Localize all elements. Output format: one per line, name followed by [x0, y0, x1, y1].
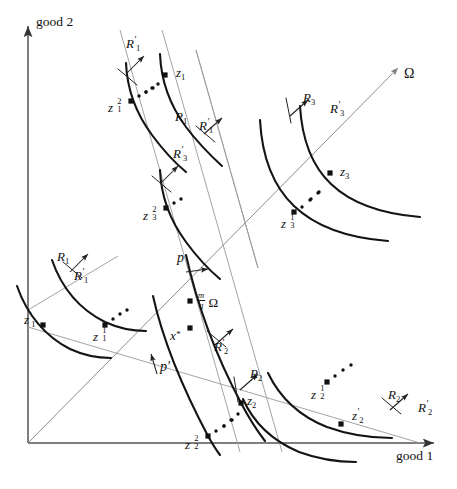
pref-base: R	[418, 400, 426, 415]
alloc-sub: 1	[102, 334, 106, 343]
pref-base: R	[57, 249, 65, 264]
allocation-label-z3-one: z133	[281, 217, 290, 230]
point-z1	[162, 72, 167, 77]
allocation-label-z2-prime: z′2	[352, 408, 363, 424]
q-denominator: q	[197, 301, 205, 310]
alloc-scripts: 222	[190, 438, 194, 451]
allocation-label-z2: z2	[247, 394, 256, 409]
curve-z3	[300, 106, 420, 217]
preference-label-R1-left: R1	[57, 250, 69, 265]
allocation-label-z1-sq: z211	[108, 101, 117, 114]
preference-label-R1p-top: R′1	[126, 36, 140, 52]
allocation-label-z1-one: z111	[93, 330, 102, 343]
dots-upper-left-dot-0	[137, 94, 140, 97]
preference-label-R3-right: R3	[303, 91, 315, 106]
m-over-q-fraction: m q	[197, 291, 205, 310]
pref-sub: 3	[311, 97, 315, 107]
pref-base: R	[175, 109, 183, 124]
endowment-omega: Ω	[205, 295, 218, 310]
preference-label-R1p-left: R′1	[74, 268, 88, 284]
alloc-sub: 3	[345, 171, 349, 181]
pref-base: R	[126, 36, 134, 51]
economics-diagram-canvas	[0, 0, 457, 489]
alloc-scripts: 111	[98, 330, 102, 343]
pref-base: R	[330, 101, 338, 116]
preference-label-R2p-lower: R′2	[418, 400, 432, 416]
point-z2	[238, 400, 243, 405]
omega-label: Ω	[404, 66, 414, 82]
allocation-label-z1: z1	[176, 66, 185, 81]
point-z2-sq	[205, 433, 210, 438]
dots-z2b-dot-0	[222, 424, 225, 427]
preference-label-R3p-mid: R′3	[173, 146, 187, 162]
preference-label-R2p-center: R′2	[214, 339, 228, 355]
allocation-label-z3-sq: z233	[143, 209, 152, 222]
point-z2-prime	[338, 421, 343, 426]
alloc-sub: 2	[194, 442, 198, 451]
y-axis-label: good 2	[36, 14, 73, 30]
x-star-asterisk: *	[176, 329, 181, 339]
budget-lines	[28, 30, 420, 452]
curve-z2-one	[268, 373, 392, 438]
dots-upper-right-dot-0	[144, 90, 147, 93]
dots-z2b-dot-1	[229, 418, 232, 421]
pref-sub: 3	[183, 153, 187, 163]
pref-base: R	[199, 118, 207, 133]
pref-sub: 2	[428, 407, 432, 417]
dots-z1left-dot-0	[111, 317, 114, 320]
dots-upper-right-dot-2	[156, 82, 159, 85]
point-z1-prime	[40, 322, 45, 327]
dots-z2b-dot-2	[236, 412, 239, 415]
alloc-sub: 3	[290, 221, 294, 230]
preference-label-R1p-upper: R′1	[199, 118, 213, 134]
point-z3-sq	[163, 205, 168, 210]
alloc-sub: 1	[117, 105, 121, 114]
arrow-R1p-top	[126, 56, 144, 74]
budget-line-left-short	[28, 256, 118, 310]
preference-label-R2-lower: R2	[388, 388, 400, 403]
dots-z3b-dot-1	[317, 190, 320, 193]
point-z2-one	[324, 379, 329, 384]
alloc-scripts: 211	[113, 101, 117, 114]
arrow-R3p-mid	[160, 166, 178, 184]
dots-z2right-dot-0	[333, 374, 336, 377]
pref-sub: 1	[65, 256, 69, 266]
pref-base: R	[173, 146, 181, 161]
alloc-scripts: 233	[148, 209, 152, 222]
pref-base: R	[250, 366, 258, 381]
alloc-sub: 2	[359, 415, 363, 425]
alloc-sub: 2	[252, 400, 256, 410]
dots-z1left-dot-1	[118, 312, 121, 315]
x-star-label: x*	[170, 329, 180, 342]
preference-label-R1-upper: R1	[175, 110, 187, 125]
pref-sub: 2	[258, 373, 262, 383]
price-p-label: p	[177, 251, 184, 265]
pref-base: R	[74, 268, 82, 283]
pref-sub: 2	[224, 346, 228, 356]
curve-z3-sq	[160, 170, 220, 279]
pref-sub: 3	[340, 108, 344, 118]
point-x-star	[187, 325, 192, 330]
price-p-prime-label: p′	[160, 360, 170, 374]
point-mq-omega	[187, 298, 192, 303]
alloc-scripts: 122	[316, 388, 320, 401]
curve-z1-one	[52, 260, 146, 331]
dots-mid-dot-1	[179, 197, 182, 200]
pref-base: R	[303, 90, 311, 105]
pref-sub: 1	[136, 43, 140, 53]
allocation-label-z2-sq: z222	[185, 438, 194, 451]
preference-label-R3p-right: R′3	[330, 101, 344, 117]
allocation-label-z2-one: z122	[311, 388, 320, 401]
pref-sub: 1	[84, 275, 88, 285]
dots-mid-dot-0	[172, 201, 175, 204]
endowment-label: m q Ω	[197, 291, 218, 310]
budget-line-right-steep	[196, 50, 258, 268]
alloc-sub: 1	[181, 72, 185, 82]
x-axis-label: good 1	[396, 448, 433, 464]
pref-sub: 2	[396, 394, 400, 404]
dots-upper-right-dot-1	[150, 86, 153, 89]
alloc-sub: 1	[31, 319, 35, 329]
pref-sub: 1	[209, 125, 213, 135]
tick-R3p-right	[286, 98, 291, 123]
preference-label-R2-bottom: R2	[250, 367, 262, 382]
